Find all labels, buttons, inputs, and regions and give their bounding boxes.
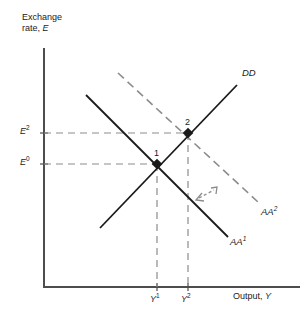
y-axis-title-variable: E [43, 23, 49, 33]
curve-label-AA1-base: AA [230, 236, 243, 247]
x-tick-label-Y2-sup: 2 [187, 292, 191, 299]
axis-lines [44, 48, 300, 287]
y-tick-label-E2: E2 [20, 126, 30, 137]
curve-label-AA2-sup: 2 [274, 205, 278, 212]
y-tick-label-E0-sup: 0 [26, 155, 30, 162]
x-tick-label-Y1-sup: 1 [156, 292, 160, 299]
x-axis-title: Output, Y [233, 291, 271, 302]
equilibrium-point-1-marker [152, 159, 163, 170]
y-tick-label-E2-sup: 2 [26, 124, 30, 131]
x-axis-title-variable: Y [265, 291, 271, 301]
curve-DD [100, 85, 237, 228]
curve-label-AA1: AA1 [230, 236, 246, 248]
y-tick-label-E0: E0 [20, 157, 30, 168]
y-axis-title: Exchange rate, E [22, 12, 62, 35]
x-tick-label-Y2: Y2 [181, 294, 191, 305]
shift-arrow [196, 187, 217, 201]
y-axis-title-line1: Exchange [22, 12, 62, 22]
x-axis-title-prefix: Output, [233, 291, 265, 301]
equilibrium-point-1-label: 1 [154, 148, 159, 159]
y-axis-title-line2-prefix: rate, [22, 23, 43, 33]
curve-label-DD: DD [242, 67, 256, 79]
curve-label-AA2-base: AA [261, 206, 274, 217]
equilibrium-point-2-marker [183, 128, 194, 139]
x-tick-label-Y1: Y1 [150, 294, 160, 305]
equilibrium-point-2-label: 2 [185, 117, 190, 128]
curve-label-AA2: AA2 [261, 206, 277, 218]
dd-aa-diagram: Exchange rate, E Output, Y E2 E0 Y1 Y2 D… [0, 0, 308, 315]
curve-label-AA1-sup: 1 [243, 235, 247, 242]
curve-label-DD-base: DD [242, 67, 256, 78]
